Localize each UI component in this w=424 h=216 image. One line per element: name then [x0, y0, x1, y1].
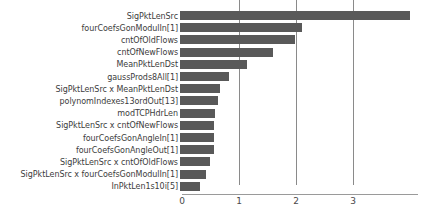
bar-row: SigPktLenSrc x MeanPktLenDst	[0, 83, 424, 95]
bar-row: InPktLen1s10i[5]	[0, 181, 424, 193]
bar-row: modTCPHdrLen	[0, 108, 424, 120]
bar-category-label: fourCoefsGonAngleOut[1]	[0, 146, 180, 155]
bar	[180, 145, 214, 154]
bar	[180, 23, 302, 32]
bar-row: polynomIndexes13ordOut[13]	[0, 95, 424, 107]
bar	[180, 84, 220, 93]
bar-row: SigPktLenSrc x fourCoefsGonModulIn[1]	[0, 169, 424, 181]
bar-category-label: cntOfOldFlows	[0, 36, 180, 45]
bar-row: SigPktLenSrc	[0, 10, 424, 22]
bar-row: cntOfNewFlows	[0, 47, 424, 59]
bar-track	[180, 95, 424, 107]
x-tick-label-1: 1	[229, 196, 249, 207]
bar	[180, 60, 247, 69]
x-tick-label-2: 2	[286, 196, 306, 207]
bar-track	[180, 120, 424, 132]
bar-category-label: gaussProds8All[1]	[0, 73, 180, 82]
bar	[180, 11, 410, 20]
bar-category-label: cntOfNewFlows	[0, 48, 180, 57]
bar-row: SigPktLenSrc x cntOfNewFlows	[0, 120, 424, 132]
bar-chart: SigPktLenSrcfourCoefsGonModulIn[1]cntOfO…	[0, 0, 424, 216]
bar-row: cntOfOldFlows	[0, 34, 424, 46]
bar-track	[180, 47, 424, 59]
bar-category-label: fourCoefsGonModulIn[1]	[0, 24, 180, 33]
bar-track	[180, 181, 424, 193]
bar	[180, 182, 200, 191]
bar	[180, 109, 215, 118]
bar	[180, 157, 210, 166]
bar-category-label: polynomIndexes13ordOut[13]	[0, 97, 180, 106]
bar-row: fourCoefsGonAngleOut[1]	[0, 144, 424, 156]
bar-row: SigPktLenSrc x cntOfOldFlows	[0, 156, 424, 168]
bar-track	[180, 59, 424, 71]
bar-track	[180, 83, 424, 95]
bar-category-label: fourCoefsGonAngleIn[1]	[0, 134, 180, 143]
bar	[180, 96, 218, 105]
bar-track	[180, 34, 424, 46]
bar-track	[180, 156, 424, 168]
bar-category-label: SigPktLenSrc x cntOfOldFlows	[0, 158, 180, 167]
bar-track	[180, 22, 424, 34]
bar	[180, 35, 295, 44]
bar	[180, 133, 214, 142]
bar-track	[180, 10, 424, 22]
bar-track	[180, 144, 424, 156]
bar-category-label: SigPktLenSrc x MeanPktLenDst	[0, 85, 180, 94]
x-axis-line	[182, 194, 418, 195]
bar	[180, 72, 229, 81]
x-tick-label-0: 0	[172, 196, 192, 207]
bar	[180, 170, 206, 179]
bar-category-label: modTCPHdrLen	[0, 109, 180, 118]
bar	[180, 121, 214, 130]
bar-category-label: MeanPktLenDst	[0, 60, 180, 69]
x-tick-label-3: 3	[343, 196, 363, 207]
bar-track	[180, 132, 424, 144]
bar-category-label: InPktLen1s10i[5]	[0, 182, 180, 191]
bar-category-label: SigPktLenSrc	[0, 12, 180, 21]
bar-row: fourCoefsGonModulIn[1]	[0, 22, 424, 34]
bar-category-label: SigPktLenSrc x cntOfNewFlows	[0, 121, 180, 130]
bar-row: fourCoefsGonAngleIn[1]	[0, 132, 424, 144]
bar-category-label: SigPktLenSrc x fourCoefsGonModulIn[1]	[0, 170, 180, 179]
bar-row: MeanPktLenDst	[0, 59, 424, 71]
bar-track	[180, 169, 424, 181]
bar-track	[180, 108, 424, 120]
bar-row: gaussProds8All[1]	[0, 71, 424, 83]
bar-track	[180, 71, 424, 83]
bar	[180, 48, 273, 57]
